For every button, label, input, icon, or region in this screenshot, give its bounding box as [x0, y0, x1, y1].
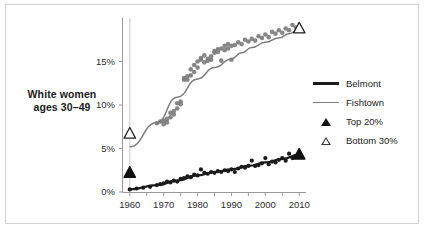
data-point: [253, 38, 258, 43]
data-point: [175, 106, 180, 111]
y-tick-label: 15%: [96, 56, 116, 67]
chart-figure: White women ages 30–49 0%5%10%15% 196019…: [0, 0, 425, 230]
data-point: [250, 159, 254, 163]
data-point: [178, 102, 183, 107]
x-tick-label: 2000: [255, 199, 276, 210]
legend-label-top-20: Top 20%: [340, 116, 383, 127]
x-tick-label: 1960: [119, 199, 140, 210]
x-tick-labels: 196019701980199020002010: [119, 199, 310, 210]
y-tick-label: 10%: [96, 99, 116, 110]
chart-legend: Belmont Fishtown Top 20% Bottom 30%: [312, 74, 418, 150]
legend-label-belmont: Belmont: [340, 78, 381, 89]
legend-item-fishtown[interactable]: Fishtown: [312, 93, 418, 112]
belmont-line-icon: [312, 82, 340, 85]
y-tick-labels: 0%5%10%15%: [96, 56, 116, 198]
x-tick-label: 1980: [187, 199, 208, 210]
data-point: [287, 152, 291, 156]
legend-label-bottom-30: Bottom 30%: [340, 135, 398, 146]
data-point: [263, 156, 267, 160]
axes: [123, 18, 307, 193]
x-tick-label: 1970: [153, 199, 174, 210]
data-point: [280, 30, 285, 35]
data-point: [239, 42, 244, 47]
data-point: [188, 73, 193, 78]
data-point: [209, 54, 214, 59]
data-point: [273, 31, 278, 36]
data-point: [192, 70, 197, 75]
x-tick-label: 2010: [289, 199, 310, 210]
data-point: [185, 77, 190, 82]
belmont-trendline: [130, 155, 299, 190]
data-point: [199, 167, 203, 171]
legend-item-bottom-30[interactable]: Bottom 30%: [312, 131, 418, 150]
data-point: [233, 170, 237, 174]
data-point: [260, 36, 265, 41]
y-tick-label: 5%: [101, 143, 115, 154]
data-point: [287, 28, 292, 33]
data-point: [195, 65, 200, 70]
triangle-open-icon: [312, 137, 340, 145]
legend-item-top-20[interactable]: Top 20%: [312, 112, 418, 131]
data-point: [216, 50, 221, 55]
data-point: [202, 53, 207, 58]
data-point: [165, 120, 170, 125]
x-tick-label: 1990: [221, 199, 242, 210]
top-20-2010-marker: [294, 148, 305, 159]
triangle-filled-icon: [312, 118, 340, 126]
legend-label-fishtown: Fishtown: [340, 97, 384, 108]
fishtown-line-icon: [312, 102, 340, 103]
data-point: [219, 58, 224, 63]
bottom-30-1960-marker: [124, 128, 135, 139]
y-tick-label: 0%: [101, 186, 115, 197]
legend-item-belmont[interactable]: Belmont: [312, 74, 418, 93]
top-20-1960-marker: [124, 167, 135, 178]
marker-annotations: [124, 22, 305, 177]
fishtown-trendline: [130, 29, 299, 146]
data-point: [266, 35, 271, 40]
